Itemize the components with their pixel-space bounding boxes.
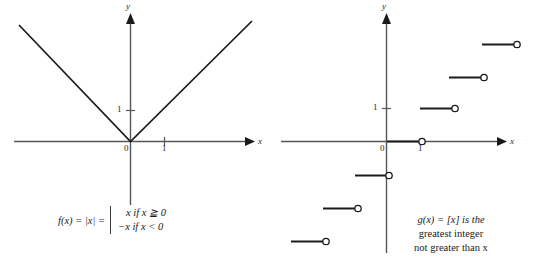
cases-brace-icon: [110, 206, 111, 234]
y-tick-label-1: 1: [373, 102, 378, 112]
open-circle-3: [514, 41, 520, 47]
y-axis-group: [382, 13, 391, 253]
y-axis-group: [126, 13, 135, 205]
absolute-value-caption: f(x) = |x| = x if x ≧ 0 −x if x < 0: [58, 206, 166, 234]
origin-label: 0: [380, 143, 385, 153]
caption-line-1: g(x) = [x] is the: [392, 213, 510, 227]
open-circle-neg1: [386, 172, 392, 178]
abs-value-polyline: [19, 21, 252, 142]
caption-lhs: f(x) = |x| =: [58, 214, 110, 227]
x-tick-label-1: 1: [418, 143, 423, 153]
case-row-2: −x if x < 0: [118, 220, 166, 234]
x-axis-label: x: [510, 136, 514, 146]
caption-line-3: not greater than x: [392, 241, 510, 255]
y-tick-label-1: 1: [117, 104, 122, 114]
y-axis-label: y: [382, 1, 386, 11]
y-axis-arrow-icon: [126, 13, 135, 24]
case-row-1: x if x ≧ 0: [118, 206, 166, 220]
x-axis-label: x: [258, 136, 262, 146]
y-axis-label: y: [126, 1, 130, 11]
open-circle-1: [452, 105, 458, 111]
x-axis-arrow-icon: [497, 137, 507, 146]
open-circle-neg2: [355, 205, 361, 211]
step-function-curve: [291, 45, 514, 242]
caption-line-2: greatest integer: [392, 227, 510, 241]
open-circle-2: [481, 74, 487, 80]
x-tick-label-1: 1: [162, 143, 167, 153]
panel-absolute-value: 0 1 1 x y f(x) = |x| = x if x ≧ 0 −x if …: [0, 0, 271, 271]
greatest-integer-caption: g(x) = [x] is the greatest integer not g…: [392, 213, 510, 255]
figure-root: 0 1 1 x y f(x) = |x| = x if x ≧ 0 −x if …: [0, 0, 542, 271]
x-axis-arrow-icon: [245, 137, 255, 146]
origin-label: 0: [124, 143, 129, 153]
open-circle-neg3: [323, 238, 329, 244]
absolute-value-curve: [19, 21, 252, 142]
y-axis-arrow-icon: [382, 13, 391, 24]
cases-list: x if x ≧ 0 −x if x < 0: [118, 206, 166, 234]
